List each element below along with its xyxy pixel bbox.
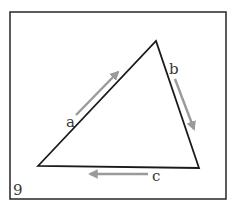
vector-label-c: c: [152, 167, 160, 185]
figure-number-label: 9: [13, 181, 23, 199]
vector-label-b: b: [169, 60, 179, 78]
vector-triangle-diagram: a b c 9: [0, 0, 236, 211]
vector-label-a: a: [66, 113, 75, 131]
arrow-a-icon: [76, 72, 118, 115]
figure-frame: [10, 12, 226, 199]
